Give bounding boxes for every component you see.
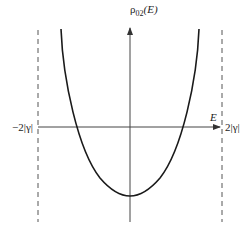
right-bound-label: 2|γ|	[225, 121, 240, 133]
y-axis-label: ρ02(E)	[130, 3, 158, 18]
left-bound-label: −2|γ|	[12, 121, 33, 133]
x-axis-label: E	[209, 111, 217, 123]
density-of-states-diagram: ρ02(E) E −2|γ| 2|γ|	[0, 0, 246, 233]
